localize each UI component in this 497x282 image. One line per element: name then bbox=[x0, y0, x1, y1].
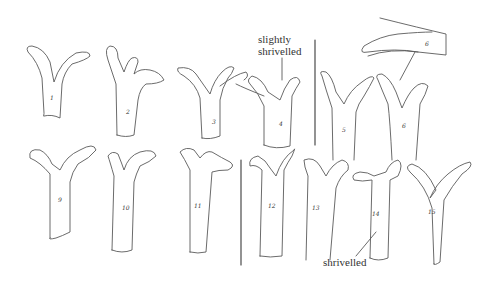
svg-text:13: 13 bbox=[312, 204, 320, 211]
svg-text:10: 10 bbox=[122, 204, 130, 211]
svg-text:5: 5 bbox=[342, 126, 346, 133]
svg-text:6: 6 bbox=[425, 40, 429, 47]
svg-text:12: 12 bbox=[268, 202, 276, 209]
svg-text:4: 4 bbox=[278, 120, 283, 127]
svg-text:11: 11 bbox=[194, 202, 202, 209]
svg-text:1: 1 bbox=[50, 94, 54, 101]
svg-text:9: 9 bbox=[58, 196, 62, 203]
specimen-14: 14 bbox=[353, 160, 401, 260]
botanical-sketch: 1 2 3 4 5 6 6 9 10 bbox=[0, 0, 497, 282]
annotation-slightly-shrivelled: slightly shrivelled bbox=[258, 33, 301, 57]
specimen-3: 3 bbox=[178, 67, 248, 139]
svg-text:6: 6 bbox=[402, 122, 406, 129]
specimen-12: 12 bbox=[250, 149, 295, 257]
annotation-line-2: shrivelled bbox=[258, 45, 301, 57]
specimen-2: 2 bbox=[106, 46, 164, 137]
specimen-6-enlarged: 6 bbox=[362, 18, 446, 80]
svg-text:2: 2 bbox=[125, 108, 130, 115]
specimen-15: 15 bbox=[407, 162, 471, 265]
specimen-11: 11 bbox=[180, 148, 233, 253]
specimen-4: 4 bbox=[236, 58, 300, 148]
annotation-line-1: slightly bbox=[258, 33, 301, 45]
svg-text:3: 3 bbox=[212, 118, 216, 125]
specimen-5: 5 bbox=[321, 72, 374, 161]
specimen-13: 13 bbox=[304, 159, 348, 260]
svg-text:14: 14 bbox=[372, 210, 380, 217]
specimen-6: 6 bbox=[377, 74, 428, 160]
specimen-1: 1 bbox=[27, 46, 90, 118]
svg-text:15: 15 bbox=[428, 208, 436, 215]
specimen-10: 10 bbox=[108, 151, 156, 252]
specimen-9: 9 bbox=[30, 146, 96, 239]
annotation-shrivelled: shrivelled bbox=[323, 256, 366, 268]
